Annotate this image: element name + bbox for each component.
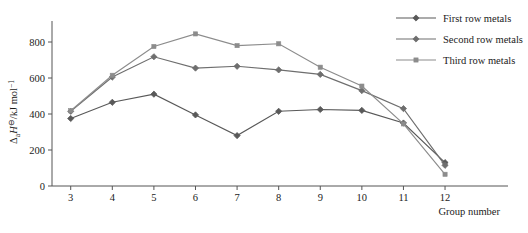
x-tick-label: 3 xyxy=(68,192,73,203)
data-point-marker xyxy=(109,99,115,105)
data-point-marker xyxy=(360,84,364,88)
y-axis-title: ΔaH⊖/kJ mol−1 xyxy=(7,80,22,144)
series-1 xyxy=(68,91,449,166)
chart-svg: 0200400600800 3456789101112 ΔaH⊖/kJ mol−… xyxy=(0,0,528,233)
series-layer xyxy=(68,32,449,177)
legend-item-2[interactable]: Second row metals xyxy=(396,34,523,45)
data-point-marker xyxy=(414,58,418,62)
data-point-marker xyxy=(69,109,73,113)
series-line xyxy=(71,34,445,174)
data-point-marker xyxy=(234,133,240,139)
data-point-marker xyxy=(152,44,156,48)
series-line xyxy=(71,94,445,162)
x-tick-label: 6 xyxy=(193,192,198,203)
data-point-marker xyxy=(413,36,419,42)
data-point-marker xyxy=(318,65,322,69)
legend-label: Third row metals xyxy=(443,55,515,66)
data-point-marker xyxy=(276,108,282,114)
data-point-marker xyxy=(151,91,157,97)
y-tick-label: 0 xyxy=(40,181,45,192)
data-point-marker xyxy=(443,172,447,176)
x-axis-ticks: 3456789101112 xyxy=(68,186,450,203)
y-axis-ticks: 0200400600800 xyxy=(29,37,52,192)
data-point-marker xyxy=(276,67,282,73)
data-point-marker xyxy=(235,44,239,48)
legend-label: Second row metals xyxy=(443,34,523,45)
y-tick-label: 600 xyxy=(29,73,45,84)
data-point-marker xyxy=(193,32,197,36)
data-point-marker xyxy=(110,73,114,77)
x-tick-label: 10 xyxy=(357,192,368,203)
y-tick-label: 400 xyxy=(29,109,45,120)
x-tick-label: 7 xyxy=(234,192,239,203)
x-tick-label: 9 xyxy=(318,192,323,203)
y-tick-label: 200 xyxy=(29,145,45,156)
svg-text:ΔaH⊖/kJ mol−1: ΔaH⊖/kJ mol−1 xyxy=(7,80,22,144)
legend-item-3[interactable]: Third row metals xyxy=(396,55,515,66)
data-point-marker xyxy=(413,15,419,21)
data-point-marker xyxy=(359,107,365,113)
data-point-marker xyxy=(192,65,198,71)
data-point-marker xyxy=(277,42,281,46)
x-tick-label: 8 xyxy=(276,192,281,203)
x-tick-label: 11 xyxy=(398,192,408,203)
y-tick-label: 800 xyxy=(29,37,45,48)
chart-container: 0200400600800 3456789101112 ΔaH⊖/kJ mol−… xyxy=(0,0,528,233)
chart-legend: First row metalsSecond row metalsThird r… xyxy=(396,13,523,66)
data-point-marker xyxy=(317,106,323,112)
legend-item-1[interactable]: First row metals xyxy=(396,13,511,24)
x-tick-label: 4 xyxy=(110,192,116,203)
x-axis-title: Group number xyxy=(438,206,500,217)
legend-label: First row metals xyxy=(443,13,511,24)
x-tick-label: 5 xyxy=(151,192,156,203)
series-2 xyxy=(68,54,449,169)
data-point-marker xyxy=(68,115,74,121)
x-tick-label: 12 xyxy=(440,192,451,203)
data-point-marker xyxy=(317,71,323,77)
data-point-marker xyxy=(192,112,198,118)
data-point-marker xyxy=(151,54,157,60)
data-point-marker xyxy=(234,63,240,69)
series-3 xyxy=(69,32,448,177)
data-point-marker xyxy=(401,122,405,126)
